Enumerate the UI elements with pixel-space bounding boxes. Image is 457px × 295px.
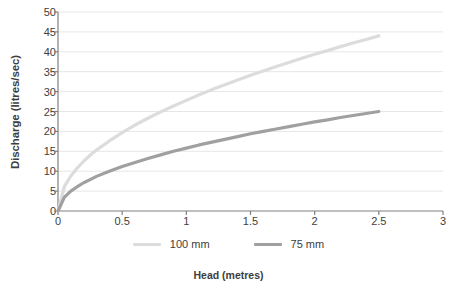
series-line-75-mm bbox=[58, 112, 379, 212]
x-axis-label: Head (metres) bbox=[0, 269, 457, 281]
legend-label: 100 mm bbox=[170, 238, 210, 250]
x-axis-tick-label: 1.5 bbox=[231, 215, 271, 227]
x-axis-tick-label: 2 bbox=[295, 215, 335, 227]
x-axis-tick-label: 0.5 bbox=[102, 215, 142, 227]
discharge-head-chart: Discharge (litres/sec) 05101520253035404… bbox=[0, 0, 457, 295]
legend-label: 75 mm bbox=[291, 238, 325, 250]
series-line-100-mm bbox=[58, 36, 379, 211]
x-axis-tick-label: 0 bbox=[38, 215, 78, 227]
chart-legend: 100 mm75 mm bbox=[0, 238, 457, 250]
legend-swatch-icon bbox=[133, 243, 161, 246]
legend-swatch-icon bbox=[254, 243, 282, 246]
plot-area bbox=[0, 0, 457, 295]
legend-item[interactable]: 75 mm bbox=[254, 238, 325, 250]
x-axis-tick-label: 1 bbox=[166, 215, 206, 227]
x-axis-tick-label: 2.5 bbox=[359, 215, 399, 227]
x-axis-tick-label: 3 bbox=[423, 215, 457, 227]
legend-item[interactable]: 100 mm bbox=[133, 238, 210, 250]
